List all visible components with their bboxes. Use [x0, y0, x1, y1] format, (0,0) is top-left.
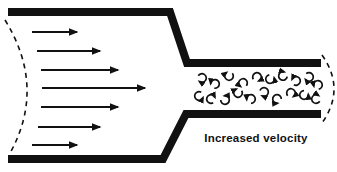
- turbulence-swirl-arrow: [221, 96, 230, 105]
- turbulence-swirl-arrow: [266, 75, 275, 84]
- turbulence-swirl-arrow: [300, 91, 309, 100]
- inlet-dashed-arc: [5, 20, 27, 155]
- laminar-arrows: [32, 32, 145, 145]
- turbulence-swirl-arrow: [273, 95, 282, 104]
- turbulence-swirl-arrow: [239, 79, 248, 87]
- turbulence-swirl-arrow: [306, 73, 314, 82]
- turbulence-swirl-arrow: [225, 73, 234, 81]
- pipe-diagram: Increased velocity: [0, 0, 337, 172]
- turbulence-swirl-arrow: [292, 77, 300, 86]
- pipe-top-wall: [8, 12, 321, 63]
- turbulence-swirl-arrow: [234, 89, 243, 97]
- outlet-dashed-arc: [322, 55, 334, 123]
- velocity-label: Increased velocity: [204, 132, 308, 144]
- turbulence-swirl-arrow: [198, 74, 206, 83]
- turbulence-swirl-arrow: [211, 80, 220, 89]
- turbulence-swirls: [195, 72, 323, 105]
- turbulence-swirl-arrow: [287, 89, 296, 97]
- turbulence-swirl-arrow: [253, 73, 262, 81]
- turbulence-swirl-arrow: [314, 81, 323, 90]
- turbulence-swirl-arrow: [195, 92, 203, 101]
- turbulence-swirl-arrow: [260, 88, 268, 97]
- turbulence-swirl-arrow: [312, 95, 320, 104]
- pipe-constriction-figure: Increased velocity: [0, 0, 337, 172]
- turbulence-swirl-arrow: [279, 72, 288, 81]
- turbulence-swirl-arrow: [207, 95, 215, 104]
- turbulence-swirl-arrow: [247, 95, 256, 104]
